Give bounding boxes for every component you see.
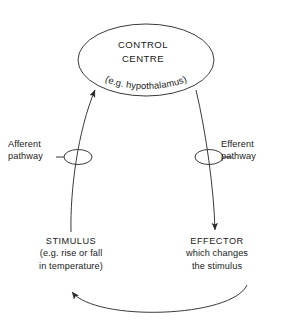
afferent-pathway-label: Afferent pathway (8, 138, 70, 163)
efferent-pathway-label: Efferent pathway (221, 138, 283, 163)
stimulus-heading: STIMULUS (4, 235, 138, 247)
effector-detail-line2: the stimulus (152, 260, 282, 272)
effector-heading: EFFECTOR (152, 235, 282, 247)
afferent-pathway-label-line2: pathway (8, 150, 70, 162)
afferent-pathway-label-line1: Afferent (8, 138, 70, 150)
efferent-pathway-line (196, 90, 215, 230)
stimulus-detail-line1: (e.g. rise or fall (4, 247, 138, 259)
homeostasis-diagram: (e.g. hypothalamus) CONTROL CENTRE Affer… (0, 0, 286, 331)
stimulus-detail-line2: in temperature) (4, 260, 138, 272)
afferent-pathway-line (71, 90, 95, 232)
control-centre-title-line1: CONTROL (0, 38, 286, 52)
effector-detail-line1: which changes (152, 247, 282, 259)
effector-node: EFFECTOR which changes the stimulus (152, 235, 282, 272)
control-centre-title: CONTROL CENTRE (0, 38, 286, 65)
efferent-pathway-label-line1: Efferent (221, 138, 283, 150)
efferent-pathway-label-line2: pathway (221, 150, 283, 162)
control-centre-title-line2: CENTRE (0, 52, 286, 66)
control-centre-sub-curved-text: (e.g. hypothalamus) (104, 74, 188, 91)
stimulus-node: STIMULUS (e.g. rise or fall in temperatu… (4, 235, 138, 272)
feedback-loop-arrow (72, 285, 247, 312)
